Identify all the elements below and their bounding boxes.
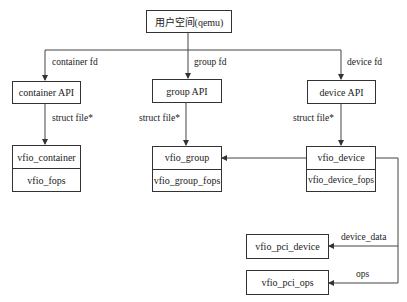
edge-label-device-fd: device fd	[347, 58, 382, 68]
node-row-fops: vfio_group_fops	[153, 169, 221, 192]
node-row-fops: vfio_fops	[13, 168, 80, 191]
edge-label-device-data: device_data	[341, 233, 386, 243]
node-row-name: vfio_device	[307, 147, 375, 169]
edge-label-ops: ops	[356, 270, 369, 280]
node-userspace-qemu: 用户空间(qemu)	[146, 10, 232, 33]
edge-label-group-fd: group fd	[194, 58, 226, 68]
node-row-fops: vfio_device_fops	[307, 169, 375, 192]
node-label: container API	[13, 82, 80, 103]
node-label: group API	[153, 80, 221, 102]
edge-label-struct-file-device: struct file*	[293, 114, 334, 124]
edge-label-container-fd: container fd	[52, 58, 98, 68]
node-label: 用户空间(qemu)	[147, 11, 231, 32]
node-vfio-pci-ops: vfio_pci_ops	[246, 270, 329, 295]
node-vfio-container: vfio_container vfio_fops	[12, 145, 81, 192]
node-group-api: group API	[152, 79, 222, 103]
node-label: vfio_pci_ops	[247, 271, 328, 294]
node-label: device API	[308, 81, 375, 103]
node-row-name: vfio_group	[153, 147, 221, 169]
node-vfio-group: vfio_group vfio_group_fops	[152, 146, 222, 192]
node-container-api: container API	[12, 81, 81, 104]
edge-label-struct-file-group: struct file*	[139, 114, 180, 124]
node-row-name: vfio_container	[13, 146, 80, 168]
node-vfio-pci-device: vfio_pci_device	[246, 234, 329, 259]
node-vfio-device: vfio_device vfio_device_fops	[306, 146, 376, 192]
node-label: vfio_pci_device	[247, 235, 328, 258]
edge-label-struct-file-container: struct file*	[52, 114, 93, 124]
node-device-api: device API	[307, 80, 376, 104]
